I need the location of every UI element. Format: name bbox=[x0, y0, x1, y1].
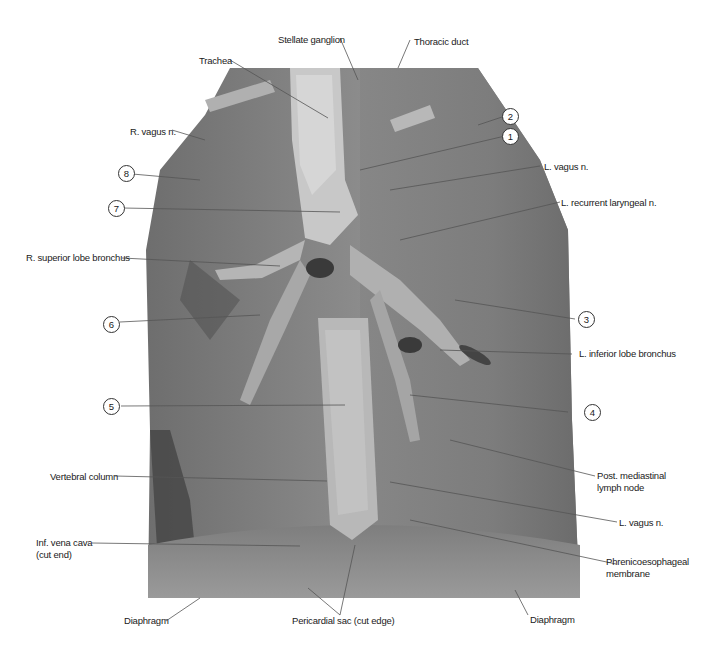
callout-4: 4 bbox=[584, 404, 601, 421]
callout-3: 3 bbox=[578, 311, 595, 328]
label-post-mediastinal-lymph-node-line1: Post. mediastinal bbox=[597, 470, 666, 481]
callout-8: 8 bbox=[118, 165, 135, 182]
label-stellate-ganglion: Stellate ganglion bbox=[278, 34, 345, 45]
label-r-vagus: R. vagus n. bbox=[130, 126, 176, 137]
label-l-recurrent-laryngeal: L. recurrent laryngeal n. bbox=[561, 197, 656, 208]
anatomy-figure: Stellate ganglion Thoracic duct Trachea … bbox=[0, 0, 714, 662]
label-vertebral-column: Vertebral column bbox=[50, 471, 118, 482]
label-l-vagus-lower: L. vagus n. bbox=[619, 517, 663, 528]
callout-2: 2 bbox=[502, 108, 519, 125]
label-trachea: Trachea bbox=[199, 55, 232, 66]
label-diaphragm-left: Diaphragm bbox=[124, 615, 169, 626]
label-pericardial-sac: Pericardial sac (cut edge) bbox=[292, 615, 395, 626]
label-r-superior-lobe-bronchus: R. superior lobe bronchus bbox=[26, 252, 130, 263]
label-phrenicoesophageal-line2: membrane bbox=[606, 568, 650, 579]
label-phrenicoesophageal-line1: Phrenicoesophageal bbox=[606, 556, 689, 567]
label-l-vagus-upper: L. vagus n. bbox=[544, 161, 588, 172]
label-l-inferior-lobe-bronchus: L. inferior lobe bronchus bbox=[579, 348, 676, 359]
label-post-mediastinal-lymph-node-line2: lymph node bbox=[597, 482, 644, 493]
label-inf-vena-cava-line2: (cut end) bbox=[36, 549, 72, 560]
callout-1: 1 bbox=[502, 128, 519, 145]
callout-7: 7 bbox=[108, 200, 125, 217]
label-thoracic-duct: Thoracic duct bbox=[414, 36, 468, 47]
label-inf-vena-cava-line1: Inf. vena cava bbox=[36, 537, 92, 548]
label-diaphragm-right: Diaphragm bbox=[530, 614, 575, 625]
callout-5: 5 bbox=[103, 398, 120, 415]
callout-6: 6 bbox=[103, 316, 120, 333]
